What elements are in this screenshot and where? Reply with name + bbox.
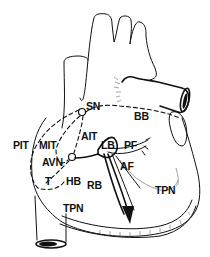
label-mit: MIT: [39, 140, 56, 151]
pulmonary-artery: [122, 77, 189, 113]
superior-vena-cava: [62, 56, 88, 128]
aortic-arch: [88, 14, 156, 80]
label-tpn-left: TPN: [63, 203, 83, 214]
sinus-node: [79, 109, 86, 116]
his-bundle: [75, 154, 98, 158]
av-node: [69, 154, 76, 161]
label-lb: LB: [101, 140, 115, 151]
label-bb: BB: [134, 111, 149, 122]
label-pf: PF: [124, 140, 137, 151]
label-hb: HB: [66, 176, 81, 187]
label-tpn-right: TPN: [155, 185, 175, 196]
label-af: AF: [120, 161, 134, 172]
label-pit: PIT: [13, 140, 29, 151]
label-rb: RB: [87, 180, 102, 191]
label-ait: AIT: [81, 131, 97, 142]
label-sn: SN: [86, 101, 100, 112]
inferior-vena-cava: [35, 196, 66, 242]
heart-drawing: [0, 0, 210, 257]
heart-conduction-diagram: SN BB PIT MIT AIT LB PF AVN AF T HB RB T…: [0, 0, 210, 257]
label-t: T: [45, 176, 51, 187]
label-avn: AVN: [42, 157, 63, 168]
